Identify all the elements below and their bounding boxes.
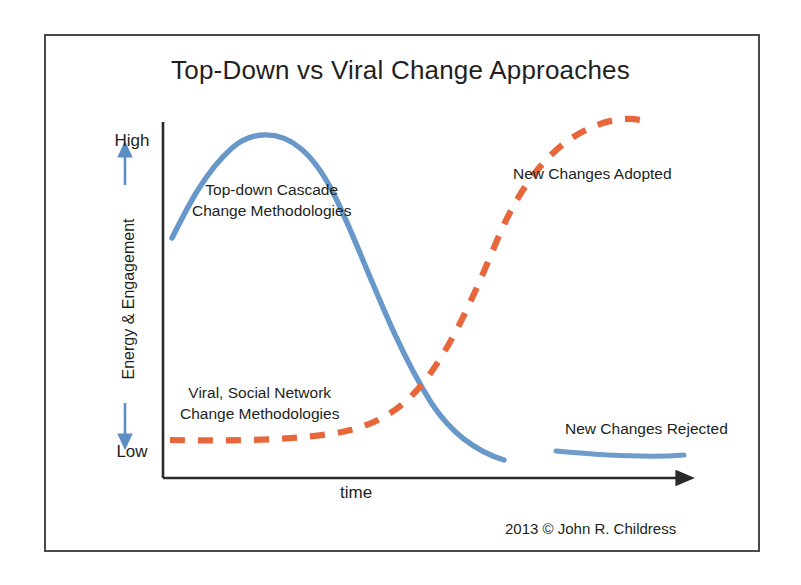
annotation-viral-line2: Change Methodologies xyxy=(180,405,339,422)
copyright-notice: 2013 © John R. Childress xyxy=(505,520,676,537)
y-axis-low-label: Low xyxy=(97,442,167,462)
annotation-topdown-cascade: Top-down Cascade Change Methodologies xyxy=(192,179,351,221)
x-axis-title: time xyxy=(340,483,372,503)
annotation-new-changes-adopted: New Changes Adopted xyxy=(513,163,672,184)
y-axis-high-label: High xyxy=(97,131,167,151)
series-topdown-tail xyxy=(556,451,684,456)
annotation-new-changes-rejected: New Changes Rejected xyxy=(565,418,728,439)
chart-figure: Top-Down vs Viral Change Approaches xyxy=(0,0,801,585)
y-axis-title: Energy & Engagement xyxy=(120,169,138,429)
annotation-viral-social: Viral, Social Network Change Methodologi… xyxy=(180,382,339,424)
annotation-topdown-line1: Top-down Cascade xyxy=(205,181,338,198)
annotation-topdown-line2: Change Methodologies xyxy=(192,202,351,219)
annotation-viral-line1: Viral, Social Network xyxy=(188,384,331,401)
